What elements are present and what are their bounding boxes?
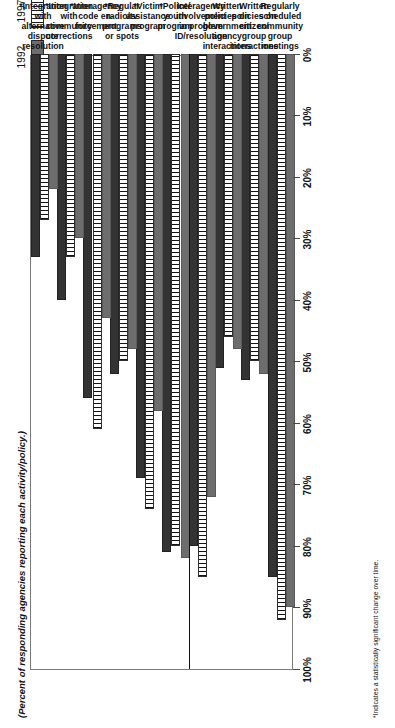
axis-tick: [293, 116, 300, 117]
category-label-line: with: [35, 11, 52, 21]
axis-tick-label: 80%: [302, 537, 313, 557]
bar-1992: [49, 54, 58, 189]
axis-tick: [293, 669, 300, 670]
bar-2002: [136, 54, 145, 478]
chart-footnote: *Indicates a statistically significant c…: [372, 560, 379, 718]
axis-tick-label: 30%: [302, 229, 313, 249]
axis-tick: [293, 423, 300, 424]
axis-tick-label: 60%: [302, 414, 313, 434]
axis-tick: [293, 54, 300, 55]
axis-tick-label: 40%: [302, 291, 313, 311]
bar-1992: [259, 54, 268, 374]
bar-2002: [83, 54, 92, 398]
bar-2002: [268, 54, 277, 577]
bar-2002: [189, 54, 198, 546]
bar-1997: [198, 54, 207, 577]
bar-2002: [215, 54, 224, 368]
category-label-line: resolution: [22, 41, 64, 51]
category-label-text: *Integrationwithalternativedisputeresolu…: [19, 1, 67, 51]
category-label-line: or spots: [105, 31, 139, 41]
bar-1992: [102, 54, 111, 318]
bar-1992: [128, 54, 137, 349]
axis-tick-label: 100%: [302, 657, 313, 683]
group-separator-line: [189, 54, 190, 669]
bar-1997: [250, 54, 259, 362]
category-axis-labels: Regularlyscheduledcommunitygroupmeetings…: [30, 1, 293, 53]
axis-tick-label: 50%: [302, 352, 313, 372]
bar-1997: [145, 54, 154, 509]
bar-1997: [93, 54, 102, 429]
value-axis-ticks: [293, 55, 301, 670]
plot-area: [30, 55, 293, 670]
bar-1997: [224, 54, 233, 337]
bar-1992: [207, 54, 216, 497]
bar-1997: [277, 54, 286, 620]
category-label: *Integrationwithalternativedisputeresolu…: [30, 1, 56, 53]
bar-1997: [40, 54, 49, 220]
axis-tick-label: 90%: [302, 598, 313, 618]
category-label-line: alternative: [22, 21, 65, 31]
axis-tick-label: 10%: [302, 106, 313, 126]
bar-2002: [241, 54, 250, 380]
bar-2002: [110, 54, 119, 374]
value-axis-tick-labels: 0%10%20%30%40%50%60%70%80%90%100%: [302, 0, 324, 728]
axis-tick: [293, 177, 300, 178]
bar-1997: [119, 54, 128, 362]
axis-tick: [293, 362, 300, 363]
axis-title: (Percent of responding agencies reportin…: [16, 431, 27, 718]
bar-2002: [31, 54, 40, 257]
axis-tick-label: 0%: [302, 48, 313, 62]
rotated-figure-canvas: 1992 1997 2002 (Percent of responding ag…: [0, 0, 395, 728]
bar-1992: [75, 54, 84, 239]
axis-tick: [293, 485, 300, 486]
category-label-line: *Integration: [19, 1, 67, 11]
axis-tick-label: 20%: [302, 168, 313, 188]
axis-tick: [293, 546, 300, 547]
bar-1997: [66, 54, 75, 257]
axis-tick-label: 70%: [302, 475, 313, 495]
bar-1992: [154, 54, 163, 411]
axis-tick: [293, 300, 300, 301]
axis-tick: [293, 239, 300, 240]
category-label-line: dispute: [28, 31, 59, 41]
axis-tick: [293, 608, 300, 609]
bar-1992: [233, 54, 242, 349]
bar-2002: [162, 54, 171, 552]
bar-2002: [57, 54, 66, 300]
bar-1997: [171, 54, 180, 546]
